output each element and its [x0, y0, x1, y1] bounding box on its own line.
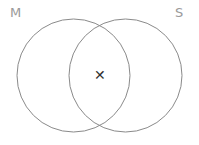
set-label-s: S	[175, 6, 184, 19]
venn-diagram: M S ✕	[0, 0, 199, 145]
set-label-m: M	[10, 6, 22, 19]
set-circle-s[interactable]	[69, 19, 182, 132]
set-circle-m[interactable]	[17, 19, 130, 132]
intersection-x-mark: ✕	[94, 68, 106, 82]
